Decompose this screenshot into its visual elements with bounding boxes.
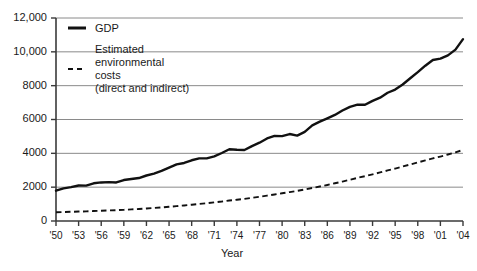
y-axis-tick-label: 6000 xyxy=(23,112,47,124)
x-axis-tick-label: '01 xyxy=(434,230,447,241)
legend-label-environmental-costs-line1: Estimated xyxy=(95,43,144,55)
x-axis-tick-label: '68 xyxy=(185,230,198,241)
x-axis-tick-label: '80 xyxy=(276,230,289,241)
x-axis-tick-label: '50 xyxy=(49,230,62,241)
y-axis-tick-label: 10,000 xyxy=(13,45,47,57)
legend-label-environmental-costs-line3: costs xyxy=(95,69,121,81)
x-axis-tick-label: '92 xyxy=(366,230,379,241)
x-axis-tick-label: '89 xyxy=(343,230,356,241)
y-axis-tick-label: 2000 xyxy=(23,180,47,192)
chart-container: 0200040006000800010,00012,000 '50'53'56'… xyxy=(0,0,477,271)
legend-label-environmental-costs-line4: (direct and indirect) xyxy=(95,82,189,94)
x-axis-tick-label: '59 xyxy=(117,230,130,241)
x-axis-tick-label: '65 xyxy=(163,230,176,241)
y-axis-tick-label: 0 xyxy=(41,214,47,226)
legend-label-environmental-costs-line2: environmental xyxy=(95,56,164,68)
x-axis-tick-label: '95 xyxy=(389,230,402,241)
x-axis-tick-label: '71 xyxy=(208,230,221,241)
x-axis-tick-label: '86 xyxy=(321,230,334,241)
x-axis-tick-label: '98 xyxy=(411,230,424,241)
x-axis-tick-label: '56 xyxy=(95,230,108,241)
y-axis-tick-label: 8000 xyxy=(23,79,47,91)
y-axis-tick-label: 4000 xyxy=(23,146,47,158)
x-axis-tick-label: '53 xyxy=(72,230,85,241)
x-axis-tick-label: '62 xyxy=(140,230,153,241)
y-axis-tick-label: 12,000 xyxy=(13,11,47,23)
line-chart: 0200040006000800010,00012,000 '50'53'56'… xyxy=(0,0,477,271)
x-axis-tick-label: '83 xyxy=(298,230,311,241)
x-axis-tick-label: '74 xyxy=(230,230,243,241)
x-axis-tick-label: '04 xyxy=(456,230,469,241)
legend-label-gdp: GDP xyxy=(95,22,119,34)
x-axis-tick-label: '77 xyxy=(253,230,266,241)
x-axis-title: Year xyxy=(221,247,244,259)
